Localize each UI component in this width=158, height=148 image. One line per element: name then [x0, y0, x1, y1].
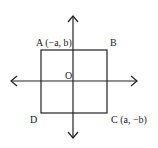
vertex-c-label: C (a, −b) — [111, 114, 147, 126]
vertex-d-label: D — [30, 114, 37, 125]
diagram-canvas: A (−a, b) B O D C (a, −b) — [0, 0, 158, 148]
vertex-a-label: A (−a, b) — [36, 37, 72, 49]
origin-label: O — [65, 70, 72, 81]
vertex-b-label: B — [110, 37, 117, 48]
x-axis — [11, 76, 137, 86]
